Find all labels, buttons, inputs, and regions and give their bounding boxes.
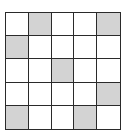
- empty-cell-r1-c2: [52, 36, 75, 59]
- empty-cell-r3-c1: [29, 83, 52, 106]
- empty-cell-r1-c4: [97, 36, 120, 59]
- shaded-cell-r4-c3: [74, 106, 97, 129]
- empty-cell-r2-c3: [74, 59, 97, 82]
- shaded-grid-diagram: [5, 12, 121, 130]
- empty-cell-r0-c0: [6, 13, 29, 36]
- empty-cell-r1-c1: [29, 36, 52, 59]
- empty-cell-r0-c3: [74, 13, 97, 36]
- shaded-cell-r2-c2: [52, 59, 75, 82]
- empty-cell-r4-c2: [52, 106, 75, 129]
- empty-cell-r4-c1: [29, 106, 52, 129]
- empty-cell-r2-c0: [6, 59, 29, 82]
- shaded-cell-r0-c4: [97, 13, 120, 36]
- shaded-cell-r4-c0: [6, 106, 29, 129]
- shaded-cell-r1-c0: [6, 36, 29, 59]
- empty-cell-r2-c4: [97, 59, 120, 82]
- empty-cell-r3-c3: [74, 83, 97, 106]
- empty-cell-r0-c2: [52, 13, 75, 36]
- empty-cell-r3-c0: [6, 83, 29, 106]
- empty-cell-r1-c3: [74, 36, 97, 59]
- empty-cell-r4-c4: [97, 106, 120, 129]
- empty-cell-r3-c2: [52, 83, 75, 106]
- empty-cell-r2-c1: [29, 59, 52, 82]
- shaded-cell-r0-c1: [29, 13, 52, 36]
- shaded-cell-r3-c4: [97, 83, 120, 106]
